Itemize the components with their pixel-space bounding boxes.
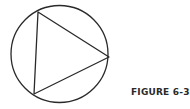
circumscribed-circle <box>11 6 108 103</box>
figure-caption: FIGURE 6-36 <box>131 87 190 97</box>
